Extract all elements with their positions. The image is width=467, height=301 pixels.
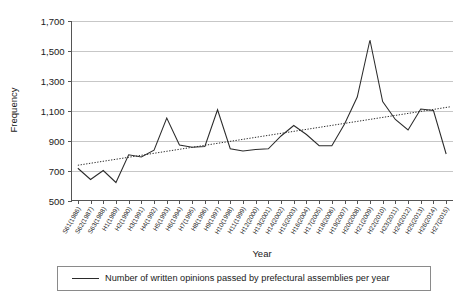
y-axis-title: Frequency — [8, 87, 19, 132]
y-axis-tick-label: 1,700 — [41, 16, 65, 27]
x-axis-title: Year — [252, 248, 271, 259]
y-axis-tick-label: 700 — [49, 166, 65, 177]
y-axis-tick-labels-group: 5007009001,1001,3001,5001,700 — [41, 16, 65, 207]
x-axis-tick-labels-group: S61(1986)S62(1987)S63(1988)H1(1989)H2(19… — [61, 206, 451, 236]
y-axis-tick-label: 500 — [49, 196, 65, 207]
y-axis-tick-label: 1,300 — [41, 76, 65, 87]
y-axis-ticks-group — [68, 22, 447, 204]
y-axis-tick-label: 1,500 — [41, 46, 65, 57]
chart-figure: 5007009001,1001,3001,5001,700 S61(1986)S… — [0, 0, 467, 301]
y-axis-tick-label: 900 — [49, 136, 65, 147]
trendline — [78, 107, 451, 166]
y-axis-tick-label: 1,100 — [41, 106, 65, 117]
line-chart-svg: 5007009001,1001,3001,5001,700 S61(1986)S… — [0, 0, 467, 301]
legend-entry-label: Number of written opinions passed by pre… — [105, 273, 389, 283]
